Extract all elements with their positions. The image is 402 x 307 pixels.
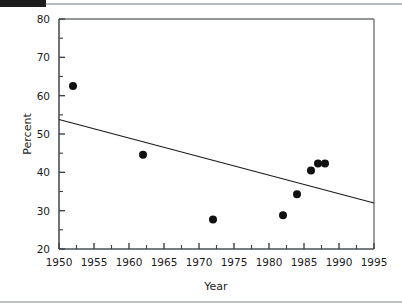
x-axis-tick-label: 1970 — [186, 256, 213, 268]
x-axis-tick-label: 1995 — [361, 256, 388, 268]
y-axis-tick-label: 60 — [37, 90, 50, 102]
data-point — [293, 190, 301, 198]
x-axis-tick-label: 1980 — [256, 256, 283, 268]
y-axis-tick-label: 40 — [37, 166, 50, 178]
data-point-markers — [69, 82, 329, 223]
y-axis-ticks — [59, 19, 65, 249]
data-point — [69, 82, 77, 90]
data-point — [279, 211, 287, 219]
y-axis-title: Percent — [21, 113, 34, 155]
data-point — [209, 215, 217, 223]
y-axis-tick-label: 30 — [37, 205, 50, 217]
data-point — [314, 160, 322, 168]
y-axis-tick-label: 80 — [37, 13, 50, 25]
plot-frame — [59, 19, 374, 249]
x-axis-tick-label: 1955 — [81, 256, 108, 268]
x-axis-tick-label: 1950 — [46, 256, 73, 268]
y-axis-tick-label: 20 — [37, 243, 50, 255]
x-axis-tick-label: 1975 — [221, 256, 248, 268]
x-axis-tick-label: 1990 — [326, 256, 353, 268]
scatter-plot-percent-vs-year: 20304050607080 1950195519601965197019751… — [0, 0, 402, 307]
y-axis-tick-labels: 20304050607080 — [37, 13, 50, 255]
x-axis-ticks — [59, 243, 374, 249]
y-axis-tick-label: 50 — [37, 128, 50, 140]
y-axis-tick-label: 70 — [37, 51, 50, 63]
x-axis-tick-label: 1965 — [151, 256, 178, 268]
data-point — [139, 151, 147, 159]
scanned-page: 20304050607080 1950195519601965197019751… — [0, 0, 402, 307]
data-point — [321, 160, 329, 168]
x-axis-tick-label: 1985 — [291, 256, 318, 268]
x-axis-title: Year — [203, 280, 228, 293]
x-axis-tick-labels: 1950195519601965197019751980198519901995 — [46, 256, 388, 268]
x-axis-tick-label: 1960 — [116, 256, 143, 268]
data-point — [307, 166, 315, 174]
